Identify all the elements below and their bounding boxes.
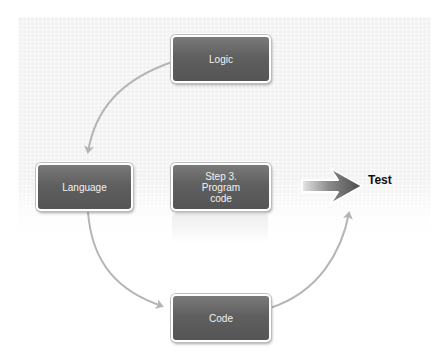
node-program-code: Step 3. Program code xyxy=(171,163,271,211)
node-language: Language xyxy=(36,163,133,211)
program-code-reflection xyxy=(172,214,268,244)
test-label: Test xyxy=(368,173,392,187)
big-arrow-icon xyxy=(302,168,362,204)
node-logic-label: Logic xyxy=(209,54,233,65)
node-code: Code xyxy=(171,294,271,342)
node-code-label: Code xyxy=(209,313,233,324)
node-language-label: Language xyxy=(62,182,107,193)
node-program-code-label: Step 3. Program code xyxy=(202,171,240,204)
connector-language-to-code xyxy=(88,212,162,306)
node-logic: Logic xyxy=(171,35,271,83)
connector-logic-to-language xyxy=(88,62,172,152)
connector-code-to-test xyxy=(270,213,349,308)
